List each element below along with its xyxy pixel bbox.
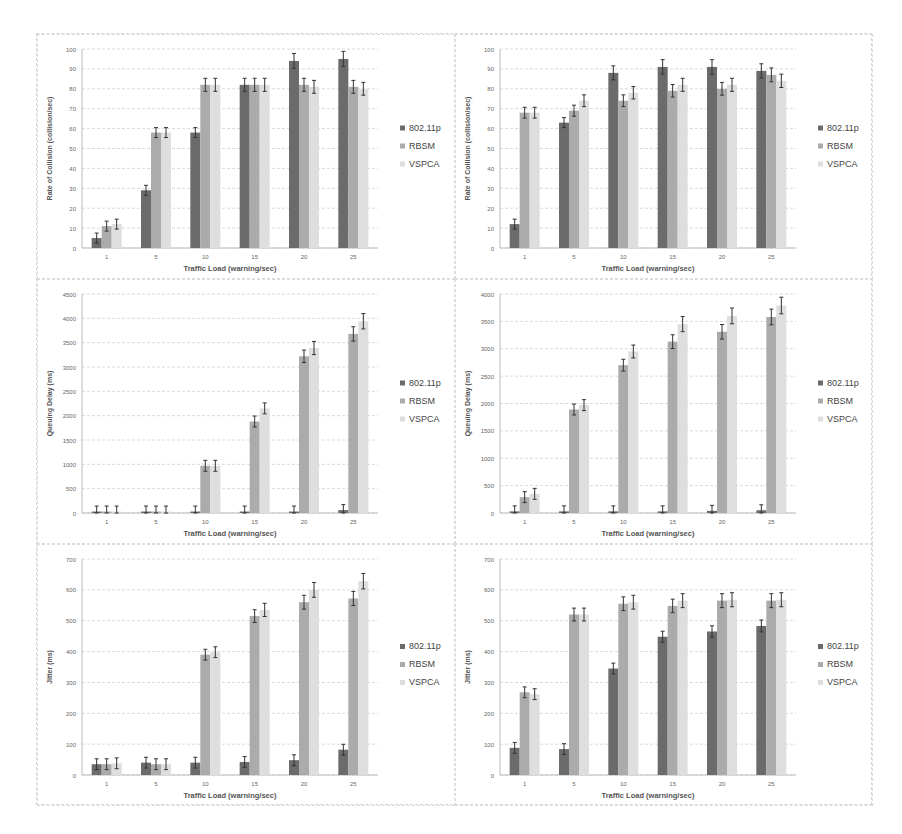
y-tick-label: 90	[487, 66, 494, 72]
y-tick-label: 100	[66, 742, 77, 748]
x-tick-label: 20	[719, 254, 726, 260]
legend-swatch	[818, 126, 823, 131]
x-tick-label: 25	[768, 519, 775, 525]
bar	[358, 321, 368, 513]
y-tick-label: 600	[66, 587, 77, 593]
x-tick-label: 5	[154, 254, 158, 260]
x-axis-label: Traffic Load (warning/sec)	[184, 529, 277, 538]
y-tick-label: 100	[484, 47, 495, 53]
y-tick-label: 300	[484, 680, 495, 686]
chart-collision-rate-left: 01020304050607080901001510152025Traffic …	[37, 34, 455, 279]
bar	[707, 632, 717, 775]
bar	[776, 81, 786, 248]
bar	[608, 669, 618, 775]
legend-label: RBSM	[409, 659, 435, 669]
y-tick-label: 2500	[481, 374, 495, 380]
legend-swatch	[400, 399, 405, 404]
x-tick-label: 15	[251, 519, 258, 525]
y-tick-label: 200	[484, 711, 495, 717]
bar	[200, 655, 210, 775]
bar	[289, 61, 299, 248]
bar	[151, 133, 161, 248]
x-tick-label: 15	[669, 519, 676, 525]
y-tick-label: 2500	[63, 389, 77, 395]
y-tick-label: 4000	[481, 292, 495, 298]
bar	[141, 190, 151, 248]
y-tick-label: 30	[69, 186, 76, 192]
bar	[250, 616, 260, 775]
x-tick-label: 25	[350, 519, 357, 525]
y-tick-label: 2000	[481, 401, 495, 407]
y-tick-label: 20	[69, 206, 76, 212]
bar	[678, 324, 688, 513]
bar	[579, 405, 589, 513]
bar	[707, 67, 717, 248]
y-tick-label: 80	[69, 86, 76, 92]
legend-label: 802.11p	[409, 641, 441, 651]
bar	[658, 67, 668, 248]
y-tick-label: 500	[484, 618, 495, 624]
x-tick-label: 10	[620, 781, 627, 787]
y-tick-label: 10	[487, 226, 494, 232]
x-tick-label: 25	[350, 781, 357, 787]
bar	[717, 89, 727, 248]
x-tick-label: 1	[105, 254, 109, 260]
x-tick-label: 15	[669, 254, 676, 260]
legend-label: 802.11p	[827, 641, 859, 651]
bar	[260, 85, 270, 248]
legend-swatch	[400, 381, 405, 386]
x-axis-label: Traffic Load (warning/sec)	[602, 264, 695, 273]
legend-swatch	[818, 399, 823, 404]
legend-label: VSPCA	[827, 677, 858, 687]
y-tick-label: 0	[491, 246, 495, 252]
bar	[240, 85, 250, 248]
x-tick-label: 20	[719, 519, 726, 525]
y-tick-label: 0	[73, 773, 77, 779]
y-tick-label: 0	[491, 773, 495, 779]
x-tick-label: 1	[105, 519, 109, 525]
bar	[210, 466, 220, 513]
x-tick-label: 20	[301, 781, 308, 787]
bar	[727, 85, 737, 248]
y-tick-label: 400	[484, 649, 495, 655]
y-tick-label: 3000	[481, 346, 495, 352]
bar	[678, 85, 688, 248]
bar	[658, 637, 668, 775]
legend-swatch	[818, 144, 823, 149]
bar	[776, 305, 786, 513]
bar	[717, 601, 727, 775]
y-tick-label: 1500	[63, 438, 77, 444]
bar	[579, 615, 589, 775]
legend-swatch	[400, 644, 405, 649]
y-tick-label: 3000	[63, 365, 77, 371]
legend-swatch	[818, 644, 823, 649]
x-tick-label: 10	[202, 519, 209, 525]
bar	[520, 113, 530, 248]
x-tick-label: 20	[301, 519, 308, 525]
bar	[608, 73, 618, 248]
y-tick-label: 70	[69, 106, 76, 112]
bar	[309, 590, 319, 775]
bar	[628, 602, 638, 775]
chart-queuing-delay-left: 0500100015002000250030003500400045001510…	[37, 279, 455, 544]
bar	[309, 348, 319, 513]
y-tick-label: 0	[491, 511, 495, 517]
legend-swatch	[818, 381, 823, 386]
y-axis-label: Rate of Collision (collision/sec)	[464, 97, 472, 201]
bar	[309, 87, 319, 248]
bar	[628, 93, 638, 248]
legend-swatch	[818, 162, 823, 167]
y-tick-label: 400	[66, 649, 77, 655]
legend-swatch	[400, 662, 405, 667]
bar	[766, 75, 776, 248]
y-tick-label: 60	[69, 126, 76, 132]
y-tick-label: 1000	[63, 462, 77, 468]
y-tick-label: 1000	[481, 456, 495, 462]
x-tick-label: 15	[251, 781, 258, 787]
bar	[717, 332, 727, 513]
y-tick-label: 0	[73, 246, 77, 252]
x-tick-label: 5	[154, 519, 158, 525]
x-tick-label: 10	[620, 254, 627, 260]
chart-jitter-right: 01002003004005006007001510152025Traffic …	[455, 544, 873, 806]
legend-swatch	[400, 680, 405, 685]
